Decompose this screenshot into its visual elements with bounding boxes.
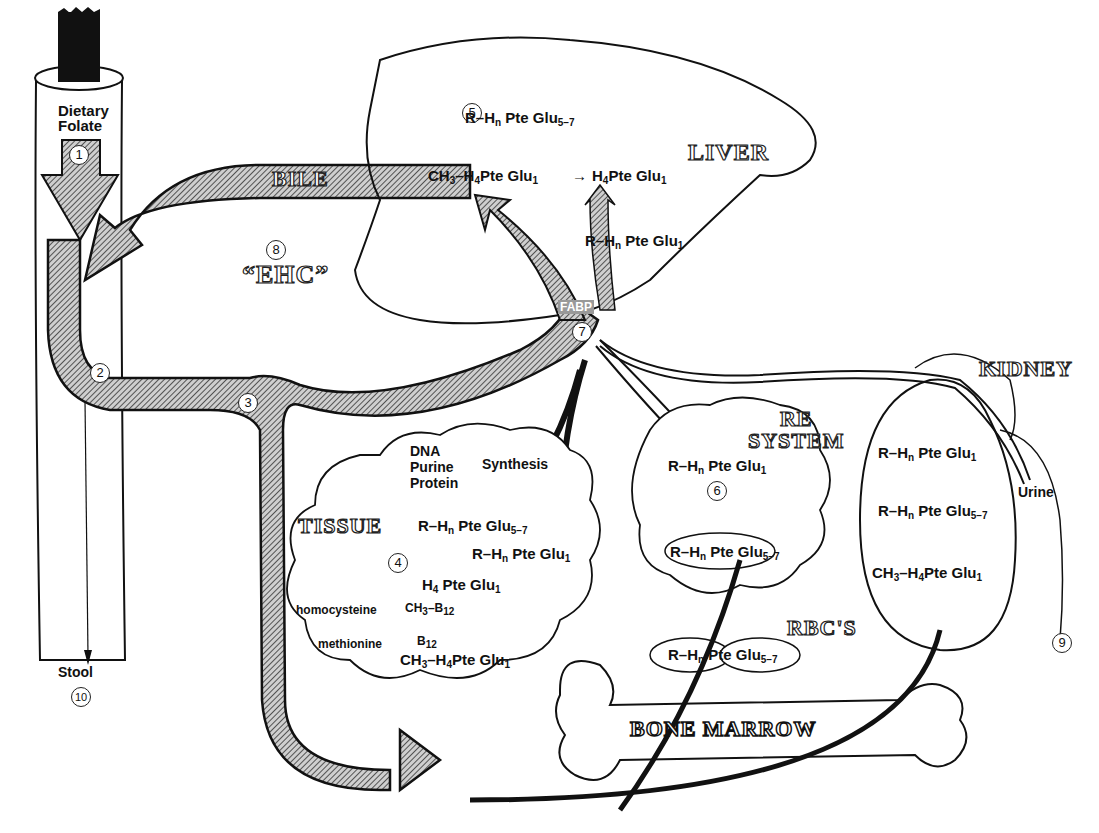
step-10: 10 xyxy=(71,687,91,707)
rbcs-label: RBC'S xyxy=(787,617,857,639)
step-1: 1 xyxy=(69,145,89,165)
kidney-methyl-folate: CH3–H4Pte Glu1 xyxy=(872,565,982,583)
liver-h4-folate: H4Pte Glu1 xyxy=(592,168,666,186)
step-8: 8 xyxy=(266,240,286,260)
liver-polyglutamate: R–Hn Pte Glu5–7 xyxy=(465,110,575,128)
synthesis-items: DNA Purine Protein xyxy=(410,443,458,491)
step-7: 7 xyxy=(572,322,592,342)
step-9: 9 xyxy=(1052,633,1072,653)
folate-label: Folate xyxy=(58,118,100,133)
liver-monoglutamate: R–Hn Pte Glu1 xyxy=(585,233,683,251)
re-polyglutamate: R–Hn Pte Glu5–7 xyxy=(670,544,780,562)
liver-arrow: → xyxy=(572,168,587,183)
tissue-polyglutamate: R–Hn Pte Glu5–7 xyxy=(418,518,528,536)
synthesis-label: Synthesis xyxy=(482,457,548,471)
tissue-label: TISSUE xyxy=(298,515,382,537)
methyl-b12-label: CH3–B12 xyxy=(405,602,454,617)
step-2: 2 xyxy=(90,363,110,383)
system-label: SYSTEM xyxy=(748,430,844,452)
bone-marrow-label: BONE MARROW xyxy=(630,718,816,740)
step-3: 3 xyxy=(238,393,258,413)
rbc-polyglutamate: R–Hn Pte Glu5–7 xyxy=(668,647,778,665)
kidney-polyglutamate: R–Hn Pte Glu5–7 xyxy=(878,503,988,521)
kidney-monoglutamate: R–Hn Pte Glu1 xyxy=(878,445,976,463)
re-system-label: RE SYSTEM xyxy=(748,408,844,452)
urine-label: Urine xyxy=(1018,485,1054,499)
step-4: 4 xyxy=(388,553,408,573)
tissue-methyl-folate: CH3–H4Pte Glu1 xyxy=(400,652,510,670)
b12-label: B12 xyxy=(417,635,437,650)
fabp-label: FABP xyxy=(558,300,594,314)
stool-label: Stool xyxy=(58,665,93,679)
liver-methyl-folate: CH3–H4Pte Glu1 xyxy=(428,168,538,186)
re-monoglutamate: R–Hn Pte Glu1 xyxy=(668,458,766,476)
ehc-label: “EHC” xyxy=(242,262,329,288)
methionine-label: methionine xyxy=(318,638,382,650)
step-6: 6 xyxy=(707,481,727,501)
homocysteine-label: homocysteine xyxy=(296,604,377,616)
bile-label: BILE xyxy=(272,168,329,190)
tissue-monoglutamate: R–Hn Pte Glu1 xyxy=(472,546,570,564)
tissue-h4-folate: H4 Pte Glu1 xyxy=(422,577,501,595)
re-label: RE xyxy=(748,408,844,430)
liver-label: LIVER xyxy=(688,140,769,164)
kidney-label: KIDNEY xyxy=(979,358,1073,380)
dietary-label: Dietary xyxy=(58,103,100,118)
gut-label: Dietary Folate xyxy=(58,103,100,133)
